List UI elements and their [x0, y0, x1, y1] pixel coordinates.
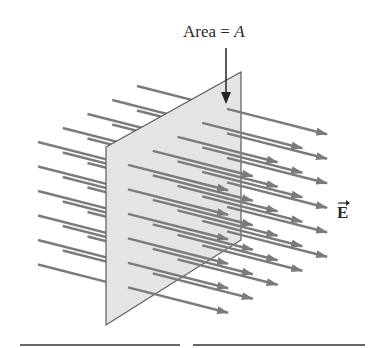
area-pointer-arrow [221, 48, 231, 104]
vector-arrow-icon [337, 199, 351, 207]
area-variable: A [234, 22, 244, 41]
divider-left [20, 344, 180, 346]
electric-flux-diagram [0, 0, 385, 348]
area-label: Area = A [183, 22, 245, 42]
electric-field-label: E [337, 203, 348, 223]
divider-right [193, 344, 365, 346]
